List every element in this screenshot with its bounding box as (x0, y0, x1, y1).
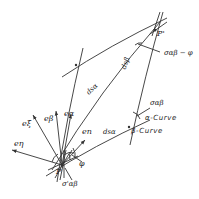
label-e-n: en (82, 128, 92, 136)
label-ds-alpha-bottom: dsα (103, 129, 116, 136)
curvilinear-coordinate-diagram: P' P eη eξ eβ eα en dsα dsα dsβ σαβ − φ … (0, 0, 199, 199)
label-sigma-ab-prime: σ'αβ (62, 181, 77, 188)
label-alpha-curve: α-Curve (145, 115, 177, 122)
intersection-bottom-right (128, 126, 130, 128)
alpha-curve-top (62, 18, 167, 77)
label-P-prime: P' (157, 30, 165, 38)
intersection-top-left (75, 64, 77, 66)
label-sigma-ab: σαβ (150, 100, 164, 107)
label-phi: φ (79, 160, 85, 168)
label-beta-curve: β-Curve (131, 128, 163, 135)
label-e-alpha: eα (64, 110, 74, 118)
label-e-xi: eξ (22, 120, 31, 128)
label-e-eta: eη (14, 140, 24, 148)
diagonal-line (52, 22, 160, 170)
label-sigma-ab-minus-phi: σαβ − φ (164, 50, 193, 57)
label-P: P (56, 168, 61, 176)
diagram-lines (0, 0, 199, 199)
label-e-beta: eβ (44, 115, 53, 123)
